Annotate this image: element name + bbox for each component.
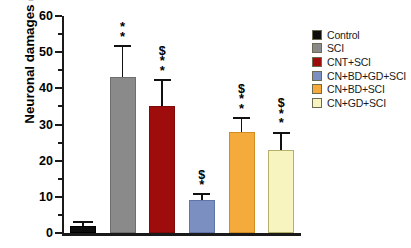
legend-item: Control: [312, 28, 411, 42]
y-tick-major: [55, 232, 62, 234]
bar-chart: Neuronal damages (Nr) 0102030405060 **$*…: [0, 0, 411, 248]
legend-item: CN+GD+SCI: [312, 96, 411, 110]
y-tick-label: 20: [39, 154, 53, 168]
y-tick-label: 0: [46, 226, 53, 240]
y-tick-minor: [58, 33, 62, 35]
significance-annotation: $**: [266, 99, 296, 128]
legend-label: Control: [327, 29, 359, 41]
legend-color-swatch: [312, 43, 322, 53]
legend-label: CN+BD+SCI: [327, 83, 385, 95]
y-tick-label: 30: [39, 118, 53, 132]
error-bar-cap: [154, 79, 171, 81]
y-tick-label: 40: [39, 81, 53, 95]
bar: [189, 200, 215, 233]
y-axis-line: [62, 16, 64, 235]
asterisk-symbol: *: [108, 32, 138, 42]
bar: [149, 106, 175, 233]
significance-annotation: **: [108, 22, 138, 41]
legend-item: SCI: [312, 42, 411, 56]
y-tick-minor: [58, 69, 62, 71]
y-tick-major: [55, 160, 62, 162]
legend-label: CN+BD+GD+SCI: [327, 70, 406, 82]
legend-label: CNT+SCI: [327, 56, 371, 68]
error-bar-line: [280, 132, 282, 150]
error-bar-cap: [193, 193, 210, 195]
y-tick-label: 50: [39, 45, 53, 59]
error-bar-cap: [273, 132, 290, 134]
y-tick-minor: [58, 105, 62, 107]
error-bar-line: [122, 45, 124, 78]
asterisk-symbol: *: [187, 180, 217, 190]
y-tick-label: 10: [39, 190, 53, 204]
x-axis-line: [62, 233, 301, 236]
legend: ControlSCICNT+SCICN+BD+GD+SCICN+BD+SCICN…: [312, 28, 411, 110]
legend-item: CNT+SCI: [312, 55, 411, 69]
y-tick-label: 60: [39, 9, 53, 23]
legend-label: CN+GD+SCI: [327, 97, 386, 109]
error-bar-line: [161, 79, 163, 106]
bar: [70, 226, 96, 233]
asterisk-symbol: *: [227, 104, 257, 114]
legend-item: CN+BD+GD+SCI: [312, 69, 411, 83]
significance-annotation: $**: [147, 47, 177, 76]
y-tick-major: [55, 196, 62, 198]
y-tick-major: [55, 87, 62, 89]
asterisk-symbol: *: [266, 118, 296, 128]
y-tick-minor: [58, 142, 62, 144]
y-tick-minor: [58, 214, 62, 216]
bar: [268, 150, 294, 233]
significance-annotation: $*: [187, 171, 217, 190]
error-bar-cap: [114, 45, 131, 47]
y-tick-major: [55, 124, 62, 126]
y-tick-major: [55, 51, 62, 53]
legend-color-swatch: [312, 57, 322, 67]
bar: [229, 132, 255, 233]
legend-color-swatch: [312, 98, 322, 108]
y-axis-title: Neuronal damages (Nr): [22, 0, 37, 136]
plot-area: 0102030405060 **$**$*$**$**: [62, 16, 300, 233]
y-tick-minor: [58, 178, 62, 180]
legend-color-swatch: [312, 30, 322, 40]
legend-item: CN+BD+SCI: [312, 82, 411, 96]
error-bar-cap: [233, 117, 250, 119]
error-bar-cap: [73, 221, 93, 223]
y-tick-major: [55, 15, 62, 17]
significance-annotation: $**: [227, 85, 257, 114]
legend-label: SCI: [327, 42, 344, 54]
legend-color-swatch: [312, 71, 322, 81]
bar: [110, 77, 136, 233]
error-bar-line: [241, 117, 243, 131]
asterisk-symbol: *: [147, 66, 177, 76]
legend-color-swatch: [312, 84, 322, 94]
